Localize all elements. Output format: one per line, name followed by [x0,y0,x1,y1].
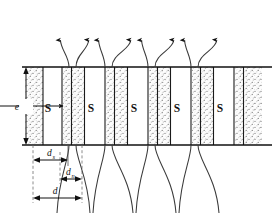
solid-zone-label: S [88,102,94,114]
porous-band [63,67,71,145]
dimension-e-label: e [15,101,20,112]
solid-zone-label: S [45,102,51,114]
figure-canvas: S S S S S e d s [0,0,279,213]
cross-section-diagram: S S S S S e d s [0,0,279,213]
dimension-dn-subscript: n [72,172,75,179]
dimension-dn-label: d [66,167,71,177]
porous-band [158,67,170,145]
porous-band [72,67,84,145]
porous-band [106,67,114,145]
porous-band [201,67,213,145]
porous-band [192,67,200,145]
dimension-d-label: d [53,186,58,196]
solid-zone-label: S [131,102,137,114]
solid-zone-label: S [217,102,223,114]
porous-band [115,67,127,145]
porous-band [244,67,262,145]
solid-zone-label: S [174,102,180,114]
dimension-ds-label: d [47,148,52,158]
porous-band [235,67,243,145]
porous-band [149,67,157,145]
